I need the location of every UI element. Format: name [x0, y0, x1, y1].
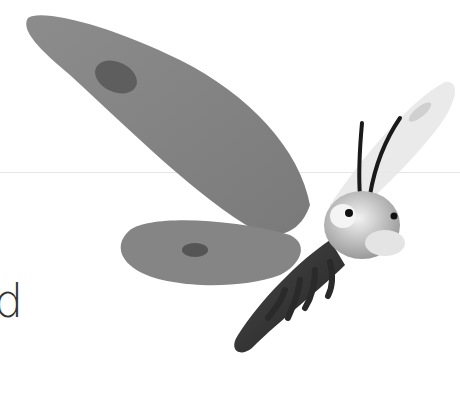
letter-d: d — [0, 278, 23, 324]
eye-left — [330, 204, 356, 228]
front-wing — [26, 15, 310, 235]
pupil-left — [345, 209, 353, 217]
pupil-right — [391, 213, 398, 220]
butterfly-illustration — [0, 0, 460, 414]
hind-wing-spot — [182, 243, 208, 257]
nose — [365, 230, 405, 256]
